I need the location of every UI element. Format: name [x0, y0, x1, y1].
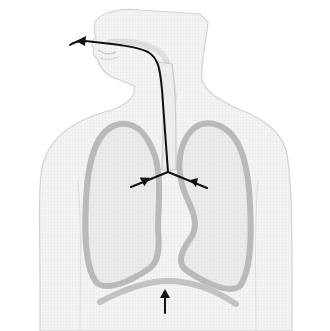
left-lung — [85, 124, 159, 286]
diagram-canvas — [0, 0, 330, 331]
respiratory-diagram: Human respiratory system - exhalation ai… — [0, 0, 330, 331]
arrowhead-left-icon — [76, 36, 86, 46]
right-lung — [179, 123, 250, 289]
